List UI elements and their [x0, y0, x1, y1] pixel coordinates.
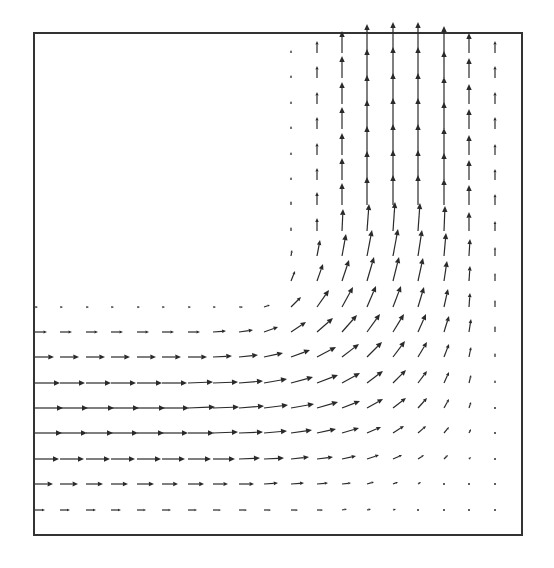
vector-arrow — [466, 160, 471, 180]
vector-arrow — [111, 509, 121, 512]
vector-arrow — [188, 380, 213, 385]
vector-arrow — [239, 306, 243, 308]
vector-arrow — [342, 287, 353, 307]
vector-arrow — [393, 509, 396, 511]
vector-arrow — [494, 247, 496, 256]
vector-arrow — [111, 380, 136, 385]
vector-arrow — [494, 458, 496, 460]
vector-arrow — [418, 398, 427, 408]
vector-arrow — [137, 509, 146, 511]
vector-arrow — [339, 56, 344, 78]
vector-arrow — [444, 372, 449, 383]
vector-arrow — [444, 455, 448, 459]
vector-arrow — [342, 427, 359, 433]
vector-arrow — [315, 66, 318, 78]
vector-arrow — [494, 380, 496, 383]
vector-arrow — [162, 354, 181, 359]
vector-arrow — [264, 327, 278, 332]
vector-arrow — [291, 350, 310, 357]
vector-arrow — [111, 354, 130, 359]
vector-arrow — [393, 426, 404, 433]
vector-arrow — [188, 430, 214, 435]
vector-arrow — [264, 352, 283, 357]
vector-arrow — [441, 51, 446, 78]
vector-arrow — [111, 430, 138, 435]
vector-arrow — [342, 508, 347, 510]
vector-arrow — [366, 204, 371, 231]
vector-arrow — [290, 101, 292, 104]
vector-arrow — [86, 380, 111, 385]
vector-arrow — [417, 509, 419, 511]
vector-arrow — [317, 290, 329, 307]
vector-arrow — [342, 234, 348, 256]
vector-arrow — [364, 151, 369, 180]
vector-arrow — [367, 399, 383, 408]
vector-arrow — [494, 407, 496, 409]
vector-arrow — [364, 177, 369, 205]
vector-arrow — [315, 192, 319, 205]
vector-arrow — [466, 185, 471, 205]
vector-arrow — [35, 354, 54, 359]
vector-arrow — [364, 75, 369, 104]
vector-arrow — [60, 330, 72, 333]
vector-arrow — [468, 457, 471, 460]
vector-arrow — [239, 509, 247, 511]
vector-arrow — [339, 31, 344, 53]
vector-arrow — [367, 314, 380, 332]
vector-arrow — [317, 264, 323, 281]
vector-arrow — [264, 456, 284, 461]
vector-arrow — [466, 58, 471, 78]
vector-arrow — [188, 330, 200, 333]
vector-arrow — [367, 509, 371, 511]
vector-arrow — [290, 126, 292, 129]
vector-arrow — [162, 509, 171, 511]
vector-arrow — [364, 24, 369, 53]
vector-arrow — [418, 426, 426, 433]
vector-arrow — [339, 82, 344, 104]
vector-arrow — [466, 33, 471, 53]
vector-arrow — [469, 429, 471, 433]
vector-arrow — [339, 107, 344, 129]
vector-arrow — [443, 233, 448, 256]
vector-arrow — [291, 376, 313, 383]
vector-arrow — [162, 430, 188, 435]
vector-arrow — [494, 300, 496, 307]
vector-arrow — [367, 371, 383, 383]
vector-arrow — [418, 342, 427, 357]
vector-arrow — [137, 482, 154, 487]
vector-arrow — [60, 354, 79, 359]
vector-arrow — [162, 405, 189, 410]
vector-arrow — [441, 26, 446, 53]
vector-arrow — [317, 318, 333, 332]
vector-arrow — [60, 380, 85, 385]
vector-arrow — [339, 183, 344, 205]
vector-arrow — [367, 427, 381, 433]
vector-arrow — [493, 92, 496, 104]
vector-arrow — [342, 344, 359, 357]
vector-arrow — [466, 84, 471, 104]
vector-arrow — [494, 353, 496, 357]
vector-arrow — [393, 482, 398, 484]
vector-arrow — [493, 41, 496, 53]
vector-arrow — [317, 375, 338, 383]
vector-arrow — [494, 509, 496, 511]
vector-arrow — [188, 354, 207, 359]
vector-arrow — [86, 482, 103, 487]
vector-arrow — [315, 218, 319, 231]
vector-arrow — [213, 482, 228, 486]
vector-arrow — [291, 455, 309, 460]
vector-arrow — [494, 169, 497, 180]
vector-arrow — [162, 330, 174, 333]
vector-arrow — [367, 455, 379, 459]
vector-arrow — [264, 429, 287, 434]
vector-arrow — [35, 330, 47, 333]
vector-arrow — [444, 399, 449, 408]
vector-arrow — [418, 230, 424, 256]
vector-arrow — [315, 92, 318, 104]
vector-arrow — [342, 482, 351, 484]
vector-arrow — [137, 306, 140, 308]
vector-arrow — [213, 354, 232, 359]
vector-arrow — [342, 401, 360, 408]
vector-arrow — [86, 330, 98, 333]
vector-arrow — [86, 509, 96, 512]
